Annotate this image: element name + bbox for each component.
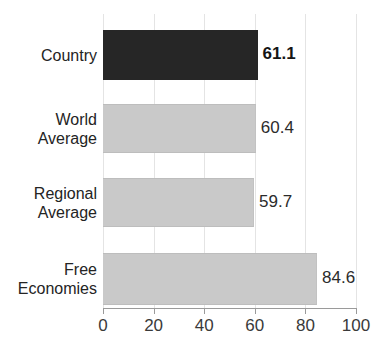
- x-tick-mark: [356, 308, 357, 314]
- category-label: Country: [0, 46, 97, 65]
- category-label-line: Free: [0, 260, 97, 279]
- category-label-line: Economies: [0, 279, 97, 298]
- value-label: 61.1: [263, 44, 296, 64]
- bar: [103, 104, 256, 153]
- category-label-line: World: [0, 110, 97, 129]
- x-tick-mark: [103, 308, 104, 314]
- bar: [103, 30, 258, 80]
- plot-area: [103, 14, 356, 308]
- x-tick-label: 100: [326, 316, 386, 336]
- category-label-line: Average: [0, 129, 97, 148]
- category-label: FreeEconomies: [0, 260, 97, 298]
- category-label-line: Country: [0, 46, 97, 65]
- x-axis-line: [103, 308, 356, 309]
- category-label: WorldAverage: [0, 110, 97, 148]
- x-tick-mark: [255, 308, 256, 314]
- value-label: 84.6: [322, 268, 355, 288]
- category-label: RegionalAverage: [0, 184, 97, 222]
- category-label-line: Average: [0, 203, 97, 222]
- x-tick-mark: [154, 308, 155, 314]
- category-label-line: Regional: [0, 184, 97, 203]
- value-label: 59.7: [259, 192, 292, 212]
- bar: [103, 253, 317, 305]
- x-tick-mark: [204, 308, 205, 314]
- gridline: [356, 14, 357, 308]
- bar: [103, 178, 254, 227]
- bar-chart: Country vs. Comparators CountryWorldAver…: [0, 0, 392, 356]
- value-label: 60.4: [261, 118, 294, 138]
- x-tick-mark: [305, 308, 306, 314]
